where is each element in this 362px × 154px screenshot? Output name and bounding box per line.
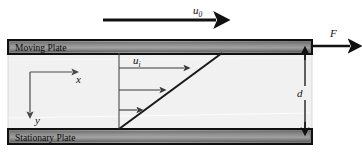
gap-label: d [297,87,303,99]
couette-flow-figure: u0 Moving Plate F Stationary Plate ui d [0,0,362,154]
force-label: F [329,27,337,39]
axis-y-label: y [34,114,40,126]
u0-label: u0 [193,4,203,19]
stationary-plate-label: Stationary Plate [15,133,75,143]
axis-x-label: x [75,73,81,85]
moving-plate-label: Moving Plate [15,43,66,53]
